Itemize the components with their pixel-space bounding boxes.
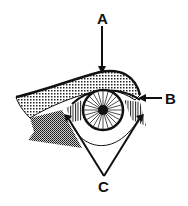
eye-diagram: A B C bbox=[0, 0, 188, 206]
label-a: A bbox=[97, 10, 108, 27]
label-c: C bbox=[98, 178, 109, 195]
iris bbox=[83, 90, 123, 130]
label-b: B bbox=[165, 90, 176, 107]
lashes-right bbox=[124, 100, 146, 126]
pupil bbox=[98, 105, 108, 115]
